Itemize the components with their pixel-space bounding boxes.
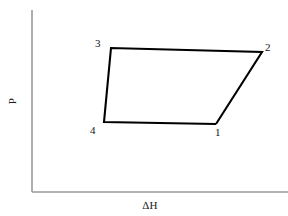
vertex-label-1: 1 (215, 126, 221, 138)
plot-canvas (0, 0, 288, 216)
vertex-label-4: 4 (90, 124, 96, 136)
thermodynamic-cycle-figure: P ΔH 3 2 4 1 (0, 0, 288, 216)
y-axis-label: P (6, 98, 18, 104)
vertex-label-2: 2 (265, 41, 271, 53)
x-axis-label: ΔH (142, 199, 157, 211)
vertex-label-3: 3 (95, 37, 101, 49)
cycle-polygon-path (104, 48, 262, 124)
